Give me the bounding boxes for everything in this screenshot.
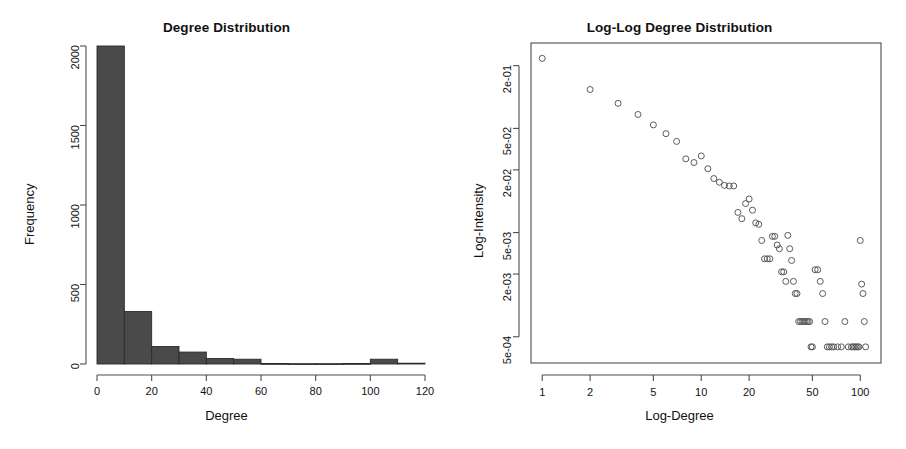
loglog-ytick-label: 2e-01 [501,65,513,117]
loglog-point [739,216,745,222]
histogram-bar [343,364,370,365]
loglog-point [731,183,737,189]
loglog-ytick-label: 5e-02 [501,127,513,179]
loglog-point [789,257,795,263]
loglog-point [860,291,866,297]
loglog-point [650,122,656,128]
histogram-bar [179,352,206,364]
loglog-point [674,138,680,144]
histogram-bar [124,312,151,364]
loglog-xtick-label: 20 [727,386,771,398]
histogram-yaxis-label: Frequency [22,184,37,245]
histogram-ytick-label: 500 [69,284,81,324]
histogram-bar [234,359,261,364]
loglog-point [587,87,593,93]
histogram-ytick-label: 1500 [69,125,81,165]
loglog-xtick-label: 2 [568,386,612,398]
histogram-ytick-label: 0 [69,363,81,403]
loglog-point [822,319,828,325]
loglog-xtick-label: 50 [790,386,834,398]
histogram-svg [0,0,453,449]
histogram-xtick-label: 40 [186,385,226,397]
histogram-panel: Degree Distribution Degree Frequency 020… [0,0,453,449]
histogram-xtick-label: 100 [350,385,390,397]
loglog-point [735,209,741,215]
histogram-bar [97,46,124,364]
loglog-point [790,278,796,284]
loglog-point [863,344,869,350]
loglog-point [861,319,867,325]
histogram-xtick-label: 80 [296,385,336,397]
loglog-point [663,131,669,137]
histogram-bar [206,358,233,364]
loglog-point [859,281,865,287]
loglog-xtick-label: 100 [838,386,882,398]
loglog-point [746,196,752,202]
loglog-svg [453,0,906,449]
histogram-xtick-label: 60 [241,385,281,397]
histogram-bar [398,363,425,364]
histogram-bars [97,46,425,364]
loglog-xtick-label: 10 [679,386,723,398]
loglog-xtick-label: 5 [631,386,675,398]
histogram-bar [152,347,179,364]
histogram-ytick-label: 2000 [69,45,81,85]
loglog-point [857,237,863,243]
loglog-point [787,246,793,252]
loglog-point [838,344,844,350]
loglog-point [749,207,755,213]
histogram-xtick-label: 0 [77,385,117,397]
loglog-yaxis-label: Log-Intensity [471,184,486,258]
histogram-xtick-label: 120 [405,385,445,397]
loglog-plot-frame [531,43,881,363]
loglog-points [539,55,868,350]
loglog-point [711,176,717,182]
loglog-point [691,160,697,166]
loglog-point [820,291,826,297]
loglog-axes [513,66,860,381]
loglog-xtick-label: 1 [520,386,564,398]
loglog-ytick-label: 5e-03 [501,232,513,284]
loglog-point [615,100,621,106]
loglog-point [683,156,689,162]
figure-canvas: Degree Distribution Degree Frequency 020… [0,0,906,449]
loglog-point [842,319,848,325]
histogram-bar [288,364,315,365]
loglog-point [783,278,789,284]
loglog-point [759,237,765,243]
histogram-ytick-label: 1000 [69,204,81,244]
histogram-bar [316,364,343,365]
loglog-point [785,232,791,238]
loglog-xaxis-label: Log-Degree [453,408,906,423]
loglog-point [705,166,711,172]
loglog-ytick-label: 5e-04 [501,336,513,388]
loglog-point [635,111,641,117]
histogram-xaxis-label: Degree [0,408,453,423]
loglog-panel: Log-Log Degree Distribution Log-Degree L… [453,0,906,449]
loglog-point [817,278,823,284]
loglog-point [539,55,545,61]
histogram-bar [370,359,397,364]
loglog-point [698,153,704,159]
histogram-bar [261,364,288,365]
histogram-xtick-label: 20 [132,385,172,397]
